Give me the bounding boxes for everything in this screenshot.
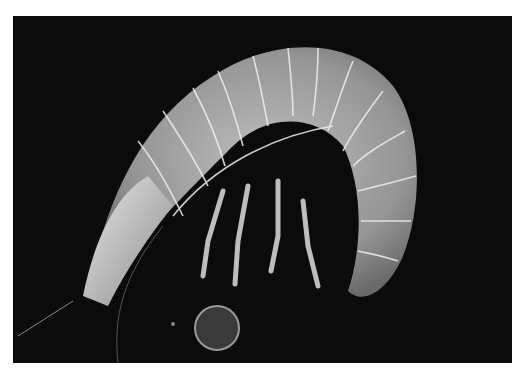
amphipod-illustration xyxy=(13,16,512,363)
bubble xyxy=(195,306,239,350)
speck xyxy=(171,322,175,326)
amphipod-photo: Grayscale micrograph of a curled amphipo… xyxy=(13,16,512,363)
